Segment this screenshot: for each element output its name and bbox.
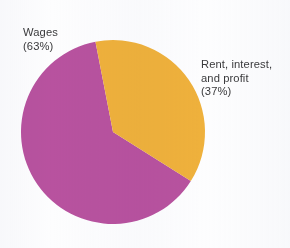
label-rent-value: (37%) — [201, 85, 272, 99]
label-rent-name-line1: Rent, interest, — [201, 58, 272, 72]
label-rent-name-line2: and profit — [201, 72, 272, 86]
pie-slices — [21, 40, 205, 224]
pie-slice-label-rent-interest-profit: Rent, interest, and profit (37%) — [201, 58, 272, 99]
label-wages-value: (63%) — [23, 40, 58, 54]
pie-chart-figure: Wages (63%) Rent, interest, and profit (… — [0, 0, 290, 248]
pie-slice-label-wages: Wages (63%) — [23, 26, 58, 53]
label-wages-name: Wages — [23, 26, 58, 40]
